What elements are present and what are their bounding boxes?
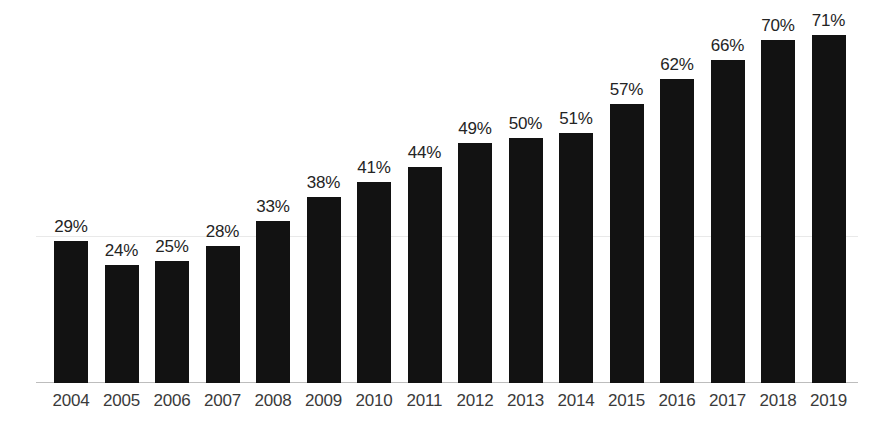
bar <box>408 167 442 383</box>
x-tick-label: 2014 <box>548 390 604 412</box>
bar-group: 41% <box>357 0 391 383</box>
bar <box>357 182 391 383</box>
bar-group: 33% <box>256 0 290 383</box>
bar <box>559 133 593 383</box>
bar-group: 57% <box>610 0 644 383</box>
bar-value-label: 50% <box>509 115 542 132</box>
bar <box>761 40 795 383</box>
bar-group: 62% <box>660 0 694 383</box>
bar-group: 28% <box>206 0 240 383</box>
bar-value-label: 70% <box>761 17 794 34</box>
bar-value-label: 49% <box>458 120 491 137</box>
bar <box>105 265 139 383</box>
bar-group: 25% <box>155 0 189 383</box>
x-tick-label: 2019 <box>801 390 857 412</box>
bar <box>307 197 341 383</box>
bar-group: 66% <box>711 0 745 383</box>
x-tick-label: 2013 <box>498 390 554 412</box>
bar-group: 29% <box>54 0 88 383</box>
x-tick-label: 2017 <box>700 390 756 412</box>
x-tick-label: 2009 <box>296 390 352 412</box>
bar-value-label: 29% <box>54 218 87 235</box>
x-tick-label: 2005 <box>94 390 150 412</box>
x-tick-label: 2016 <box>649 390 705 412</box>
bar-value-label: 28% <box>206 223 239 240</box>
bar-value-label: 25% <box>155 238 188 255</box>
bar <box>509 138 543 383</box>
bar-group: 70% <box>761 0 795 383</box>
x-tick-label: 2011 <box>397 390 453 412</box>
bar-group: 24% <box>105 0 139 383</box>
bar-value-label: 24% <box>105 242 138 259</box>
bar <box>458 143 492 383</box>
bar <box>660 79 694 383</box>
bar-group: 51% <box>559 0 593 383</box>
bar <box>711 60 745 383</box>
x-tick-label: 2004 <box>43 390 99 412</box>
x-tick-label: 2007 <box>195 390 251 412</box>
bar-value-label: 33% <box>256 198 289 215</box>
x-tick-label: 2010 <box>346 390 402 412</box>
bar-value-label: 41% <box>357 159 390 176</box>
bar <box>256 221 290 383</box>
bar-value-label: 44% <box>408 144 441 161</box>
bar-value-label: 71% <box>812 12 845 29</box>
bar-group: 71% <box>812 0 846 383</box>
bar-chart: 29%24%25%28%33%38%41%44%49%50%51%57%62%6… <box>0 0 892 426</box>
bar <box>54 241 88 383</box>
x-tick-label: 2012 <box>447 390 503 412</box>
bar-value-label: 66% <box>711 37 744 54</box>
x-axis-tick-labels: 2004200520062007200820092010201120122013… <box>0 390 892 420</box>
x-tick-label: 2015 <box>599 390 655 412</box>
bar-group: 38% <box>307 0 341 383</box>
bar-value-label: 57% <box>610 81 643 98</box>
bar-value-label: 51% <box>559 110 592 127</box>
x-tick-label: 2008 <box>245 390 301 412</box>
bar <box>206 246 240 383</box>
x-tick-label: 2018 <box>750 390 806 412</box>
bar <box>812 35 846 383</box>
bar <box>155 261 189 384</box>
plot-area: 29%24%25%28%33%38%41%44%49%50%51%57%62%6… <box>0 0 892 383</box>
bar-group: 44% <box>408 0 442 383</box>
bar <box>610 104 644 383</box>
x-tick-label: 2006 <box>144 390 200 412</box>
bar-value-label: 62% <box>660 56 693 73</box>
bar-group: 50% <box>509 0 543 383</box>
bar-value-label: 38% <box>307 174 340 191</box>
bar-group: 49% <box>458 0 492 383</box>
